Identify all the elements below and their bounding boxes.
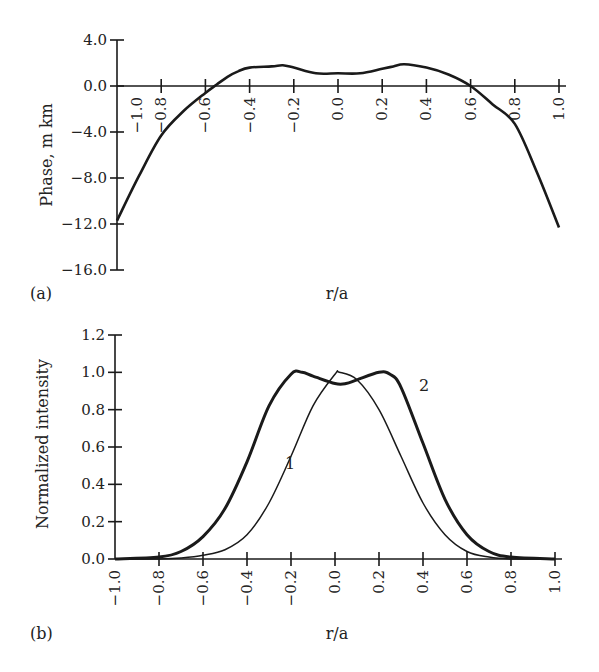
svg-text:0.8: 0.8 [502, 570, 520, 594]
phase-chart-y-ticks: 4.00.0−4.0−8.0−12.0−16.0 [61, 31, 124, 279]
svg-text:0.6: 0.6 [462, 97, 480, 121]
svg-text:−0.4: −0.4 [238, 570, 256, 606]
svg-text:−4.0: −4.0 [71, 123, 107, 141]
svg-text:1.0: 1.0 [550, 97, 568, 121]
svg-text:−1.0: −1.0 [106, 570, 124, 606]
svg-text:−0.8: −0.8 [150, 570, 168, 606]
curve-2-label: 2 [419, 376, 429, 395]
phase-chart: 4.00.0−4.0−8.0−12.0−16.0 −1.0−0.8−0.6−0.… [30, 31, 568, 303]
panel-b-label: (b) [30, 624, 53, 643]
svg-text:−0.2: −0.2 [285, 97, 303, 133]
svg-text:0.4: 0.4 [414, 570, 432, 594]
svg-text:−0.4: −0.4 [241, 97, 259, 133]
svg-text:0.0: 0.0 [326, 570, 344, 594]
intensity-chart-x-label: r/a [326, 624, 349, 643]
intensity-curve-2 [115, 371, 555, 559]
svg-text:0.0: 0.0 [81, 550, 105, 568]
svg-text:−0.2: −0.2 [282, 570, 300, 606]
intensity-chart-axes [115, 335, 562, 559]
figure-canvas: 4.00.0−4.0−8.0−12.0−16.0 −1.0−0.8−0.6−0.… [0, 0, 599, 672]
svg-text:−1.0: −1.0 [128, 97, 146, 133]
curve-1-label: 1 [285, 454, 295, 473]
intensity-chart-y-label: Normalized intensity [33, 359, 52, 529]
svg-text:−0.6: −0.6 [196, 97, 214, 133]
svg-text:−12.0: −12.0 [61, 215, 107, 233]
svg-text:0.6: 0.6 [458, 570, 476, 594]
svg-text:4.0: 4.0 [83, 31, 107, 49]
phase-chart-x-label: r/a [326, 284, 349, 303]
svg-text:0.6: 0.6 [81, 438, 105, 456]
intensity-curve-1 [115, 371, 555, 559]
svg-text:0.2: 0.2 [370, 570, 388, 594]
svg-text:0.0: 0.0 [83, 77, 107, 95]
phase-chart-x-ticks: −1.0−0.8−0.6−0.4−0.20.00.20.40.60.81.0 [128, 79, 568, 133]
svg-text:−0.6: −0.6 [194, 570, 212, 606]
phase-chart-y-label: Phase, m km [37, 103, 56, 207]
svg-text:0.0: 0.0 [329, 97, 347, 121]
svg-text:0.4: 0.4 [417, 97, 435, 121]
svg-text:−16.0: −16.0 [61, 261, 107, 279]
svg-text:0.2: 0.2 [81, 513, 105, 531]
svg-text:0.2: 0.2 [373, 97, 391, 121]
svg-text:0.4: 0.4 [81, 475, 105, 493]
svg-text:1.0: 1.0 [81, 363, 105, 381]
panel-a-label: (a) [30, 284, 52, 303]
svg-text:−8.0: −8.0 [71, 169, 107, 187]
intensity-chart: 1.21.00.80.60.40.20.0 −1.0−0.8−0.6−0.4−0… [30, 326, 564, 643]
intensity-chart-y-ticks: 1.21.00.80.60.40.20.0 [81, 326, 122, 568]
svg-text:1.0: 1.0 [546, 570, 564, 594]
svg-text:1.2: 1.2 [81, 326, 105, 344]
intensity-chart-x-ticks: −1.0−0.8−0.6−0.4−0.20.00.20.40.60.81.0 [106, 552, 564, 606]
svg-text:0.8: 0.8 [81, 401, 105, 419]
